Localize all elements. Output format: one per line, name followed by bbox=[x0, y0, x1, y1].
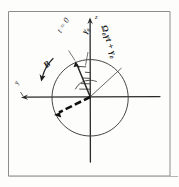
radius-line-angle bbox=[90, 68, 121, 97]
t0-leader-line bbox=[69, 51, 75, 61]
gamma0-leader-line bbox=[86, 52, 89, 66]
vector-bold-current bbox=[54, 97, 90, 117]
figure-canvas: Ω₀γt + γ₀ t = 0 γ₀ B z y bbox=[0, 0, 179, 187]
axis-tail-mark bbox=[21, 92, 24, 96]
vertical-axis bbox=[87, 18, 93, 163]
label-axis-vertical: z bbox=[95, 14, 98, 21]
